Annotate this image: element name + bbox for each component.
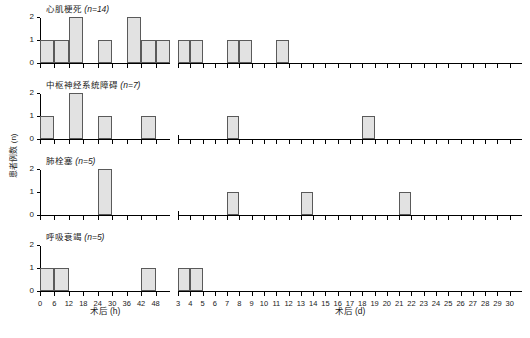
histogram-bar	[276, 40, 288, 63]
x-axis-tick	[252, 292, 253, 296]
x-axis-tick	[141, 292, 142, 296]
x-axis-tick	[461, 292, 462, 296]
x-axis-tick	[350, 216, 351, 220]
x-axis-tick-label: 28	[481, 300, 489, 308]
x-axis-tick-label: 26	[456, 300, 464, 308]
x-axis-tick	[112, 216, 113, 220]
x-axis-tick	[301, 216, 302, 220]
panel-title: 呼吸衰竭 (n=5)	[46, 230, 104, 242]
x-axis-tick	[448, 292, 449, 296]
x-axis-tick	[69, 64, 70, 68]
plot-area-days: 3456789101112131415161718192021222324252…	[178, 246, 522, 292]
x-axis-tick	[141, 140, 142, 144]
x-axis-tick	[362, 216, 363, 220]
y-axis-tick-label: 1	[30, 36, 34, 44]
x-axis-tick	[40, 140, 41, 144]
histogram-bar	[40, 40, 54, 63]
y-axis-tick-label: 0	[30, 287, 34, 295]
y-axis-tick-label: 0	[30, 59, 34, 67]
chart-panel: 心肌梗死 (n=14)012	[0, 2, 530, 76]
x-axis-tick-label: 18	[79, 300, 87, 308]
y-axis-tick-label: 0	[30, 211, 34, 219]
histogram-bar	[362, 116, 374, 139]
x-axis-tick-label: 9	[250, 300, 254, 308]
x-axis-tick-label: 6	[213, 300, 217, 308]
histogram-bar	[54, 268, 68, 291]
x-axis-tick	[485, 64, 486, 68]
histogram-bar	[301, 192, 313, 215]
x-axis-tick	[264, 140, 265, 144]
panel-title: 肺栓塞 (n=5)	[46, 154, 95, 166]
x-axis-tick	[510, 64, 511, 68]
x-axis-tick	[399, 140, 400, 144]
x-axis-tick-label: 6	[52, 300, 56, 308]
x-axis-tick	[227, 292, 228, 296]
x-axis-tick-label: 4	[188, 300, 192, 308]
histogram-bar	[227, 40, 239, 63]
x-axis-tick	[485, 216, 486, 220]
histogram-bar	[239, 40, 251, 63]
x-axis-tick-label: 25	[444, 300, 452, 308]
x-axis-tick	[276, 64, 277, 68]
histogram-bar	[190, 268, 202, 291]
x-axis-tick	[325, 216, 326, 220]
x-axis-tick	[448, 64, 449, 68]
x-axis-tick	[473, 292, 474, 296]
plot-area-days	[178, 18, 522, 64]
plot-area-hours: 012	[40, 170, 170, 216]
x-axis-tick	[190, 64, 191, 68]
x-axis-tick-label: 3	[176, 300, 180, 308]
plot-area-hours: 012	[40, 18, 170, 64]
x-axis-tick	[461, 64, 462, 68]
x-axis-tick	[127, 140, 128, 144]
chart-panel: 呼吸衰竭 (n=5)012061218243036424834567891011…	[0, 230, 530, 304]
x-axis-tick-label: 0	[38, 300, 42, 308]
x-axis-line	[40, 215, 170, 216]
x-axis-tick	[424, 216, 425, 220]
y-axis-tick-label: 1	[30, 188, 34, 196]
x-axis-tick-label: 30	[506, 300, 514, 308]
x-axis-line	[40, 139, 170, 140]
x-axis-tick	[54, 216, 55, 220]
chart-figure: 患者例数 (n) 心肌梗死 (n=14)012中枢神经系统障碍 (n=7)012…	[0, 0, 530, 338]
x-axis-tick	[141, 64, 142, 68]
x-axis-tick	[190, 140, 191, 144]
y-axis-tick-label: 0	[30, 135, 34, 143]
x-axis-tick	[350, 292, 351, 296]
histogram-bar	[141, 268, 155, 291]
x-axis-tick	[178, 140, 179, 144]
y-axis-tick: 2	[37, 245, 40, 246]
x-axis-tick	[239, 292, 240, 296]
x-axis-tick	[301, 64, 302, 68]
x-axis-tick	[424, 64, 425, 68]
panel-sample-size: (n=5)	[73, 156, 95, 166]
histogram-bar	[141, 116, 155, 139]
x-axis-tick	[40, 292, 41, 296]
x-axis-tick	[276, 292, 277, 296]
x-axis-tick	[461, 140, 462, 144]
x-axis-tick	[301, 140, 302, 144]
x-axis-tick	[448, 140, 449, 144]
x-axis-tick	[424, 140, 425, 144]
x-axis-tick	[325, 292, 326, 296]
x-axis-tick	[54, 140, 55, 144]
x-axis-tick-label: 10	[260, 300, 268, 308]
x-axis-tick-label: 42	[137, 300, 145, 308]
x-axis-tick	[215, 216, 216, 220]
histogram-bar	[54, 40, 68, 63]
histogram-bar	[227, 192, 239, 215]
histogram-bar	[40, 268, 54, 291]
y-axis-tick: 1	[37, 192, 40, 193]
x-axis-tick	[473, 140, 474, 144]
x-axis-tick	[98, 140, 99, 144]
histogram-bar	[98, 40, 112, 63]
chart-panel: 中枢神经系统障碍 (n=7)012	[0, 78, 530, 152]
y-axis-tick: 2	[37, 93, 40, 94]
x-axis-tick	[387, 140, 388, 144]
x-axis-tick	[190, 216, 191, 220]
histogram-bar	[98, 116, 112, 139]
x-axis-tick	[227, 64, 228, 68]
x-axis-tick	[127, 64, 128, 68]
x-axis-tick	[98, 64, 99, 68]
x-axis-tick	[510, 216, 511, 220]
